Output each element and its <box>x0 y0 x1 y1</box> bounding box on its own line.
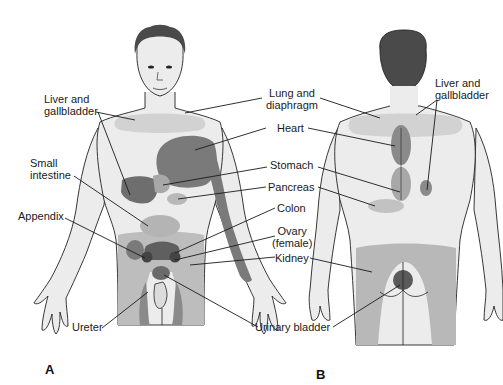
label-pancreas: Pancreas <box>268 181 314 193</box>
label-liver-back: Liver andgallbladder <box>435 77 489 101</box>
label-stomach: Stomach <box>270 159 313 171</box>
label-liver-front: Liver andgallbladder <box>44 93 98 117</box>
label-ureter: Ureter <box>72 321 103 333</box>
label-urinary-bladder: Urinary bladder <box>255 321 330 333</box>
panel-label-a: A <box>45 362 54 377</box>
back-head <box>380 30 427 108</box>
label-ovary: Ovary(female) <box>272 225 312 249</box>
label-appendix: Appendix <box>18 210 64 222</box>
panel-label-b: B <box>316 367 325 382</box>
label-heart: Heart <box>277 122 304 134</box>
label-lung-diaphragm: Lung anddiaphragm <box>266 87 318 111</box>
front-head <box>135 25 186 96</box>
label-kidney: Kidney <box>275 252 309 264</box>
label-small-intestine: Smallintestine <box>30 157 71 181</box>
label-colon: Colon <box>277 202 306 214</box>
